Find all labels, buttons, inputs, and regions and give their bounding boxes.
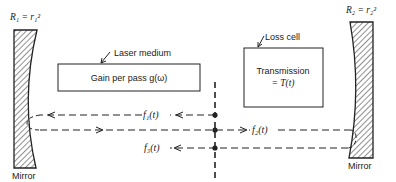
f1-reference-dot bbox=[212, 112, 217, 117]
left-mirror-caption: Mirror bbox=[12, 171, 36, 181]
f3-label: f₃(t) bbox=[144, 142, 160, 154]
laser-medium-callout: Laser medium bbox=[114, 48, 171, 58]
f3-reference-dot bbox=[212, 145, 217, 150]
laser-cavity-diagram: R₁ = r₁² Mirror R₂ = r₂² Mirror Gain per… bbox=[0, 0, 396, 182]
left-mirror bbox=[14, 30, 37, 168]
loss-cell-line1: Transmission bbox=[256, 66, 309, 76]
f3-path bbox=[170, 145, 348, 151]
right-mirror-reflectance-label: R₂ = r₂² bbox=[345, 5, 376, 15]
f2-label: f₂(t) bbox=[252, 124, 268, 136]
left-mirror-reflectance-label: R₁ = r₁² bbox=[9, 12, 40, 22]
f2-path bbox=[40, 127, 356, 148]
right-mirror-caption: Mirror bbox=[348, 161, 372, 171]
laser-medium-text: Gain per pass g(ω) bbox=[91, 73, 168, 83]
f1-path bbox=[27, 112, 215, 130]
f1-label: f₁(t) bbox=[143, 109, 159, 121]
loss-cell-callout: Loss cell bbox=[265, 32, 300, 42]
right-mirror bbox=[349, 22, 373, 158]
loss-cell-line2: = T(t) bbox=[271, 78, 294, 89]
f2-reference-dot bbox=[212, 127, 217, 132]
